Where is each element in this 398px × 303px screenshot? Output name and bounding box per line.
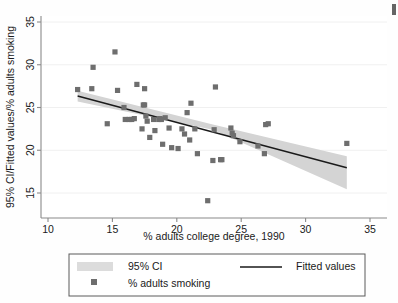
scatter-point (262, 151, 267, 156)
scatter-point (142, 86, 147, 91)
scatter-point (187, 137, 192, 142)
scatter-point (237, 139, 242, 144)
scatter-point (213, 84, 218, 89)
legend-label-ci: 95% CI (128, 260, 162, 272)
x-tick-label: 10 (42, 223, 54, 235)
scatter-point (192, 126, 197, 131)
legend-label-smoking: % adults smoking (128, 277, 210, 289)
y-axis-title: 95% CI/Fitted values/% adults smoking (4, 26, 16, 208)
scatter-point (145, 119, 150, 124)
scatter-point (210, 158, 215, 163)
y-tick-label: 25 (24, 102, 36, 114)
chart-figure: 1520253035 101520253035 95% CI/Fitted va… (0, 0, 398, 303)
scatter-point (179, 126, 184, 131)
scatter-point (231, 133, 236, 138)
scatter-point (166, 125, 171, 130)
y-tick-label: 30 (24, 59, 36, 71)
scatter-point (344, 141, 349, 146)
scatter-point (160, 142, 165, 147)
corner-artifact-mark (392, 4, 396, 15)
scatter-point (147, 135, 152, 140)
scatter-point (219, 157, 224, 162)
scatter-point (266, 121, 271, 126)
scatter-point (89, 86, 94, 91)
scatter-point (185, 110, 190, 115)
scatter-point (134, 82, 139, 87)
scatter-point (212, 127, 217, 132)
scatter-point (75, 87, 80, 92)
scatter-point (142, 102, 147, 107)
x-tick-label: 35 (364, 223, 376, 235)
scatter-point (105, 121, 110, 126)
plot-area-background (41, 16, 387, 218)
scatter-point (121, 105, 126, 110)
scatter-point (175, 146, 180, 151)
legend-ci-swatch-icon (77, 262, 113, 271)
scatter-point (255, 143, 260, 148)
y-tick-label: 35 (24, 16, 36, 28)
scatter-plot: 1520253035 101520253035 95% CI/Fitted va… (0, 0, 398, 303)
scatter-point (152, 128, 157, 133)
scatter-point (182, 131, 187, 136)
y-tick-label: 15 (24, 187, 36, 199)
x-tick-label: 30 (300, 223, 312, 235)
scatter-point (132, 116, 137, 121)
scatter-point (151, 117, 156, 122)
scatter-point (169, 145, 174, 150)
scatter-point (205, 198, 210, 203)
legend-square-marker-icon (91, 279, 97, 285)
scatter-point (112, 49, 117, 54)
scatter-point (143, 113, 148, 118)
scatter-point (188, 101, 193, 106)
scatter-point (90, 65, 95, 70)
scatter-point (139, 126, 144, 131)
legend-label-fitted: Fitted values (296, 260, 356, 272)
x-axis-title: % adults college degree, 1990 (143, 230, 284, 242)
scatter-point (115, 88, 120, 93)
scatter-point (195, 151, 200, 156)
scatter-point (228, 125, 233, 130)
scatter-point (163, 115, 168, 120)
y-tick-label: 20 (24, 144, 36, 156)
x-tick-label: 15 (107, 223, 119, 235)
